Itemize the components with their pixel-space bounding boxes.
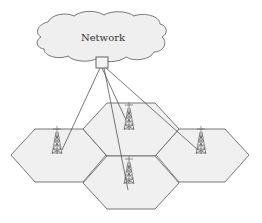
network-gateway-box bbox=[96, 57, 108, 68]
cellular-network-diagram: Network bbox=[0, 0, 262, 223]
network-label: Network bbox=[81, 32, 126, 43]
